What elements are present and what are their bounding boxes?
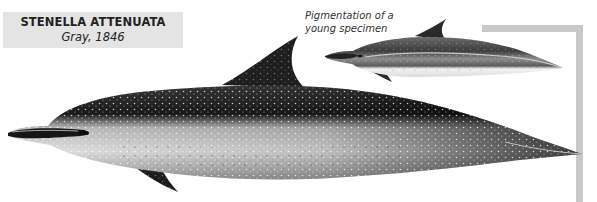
dolphin-illustrations (0, 0, 597, 202)
young-dolphin (325, 19, 563, 82)
